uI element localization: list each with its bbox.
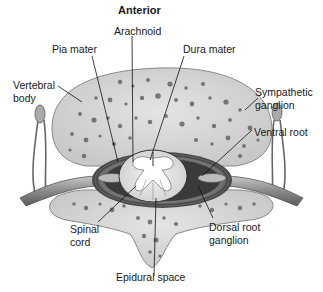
dorsal-root-ganglion-shape (198, 174, 226, 183)
label-spinal-cord-line1: Spinal (70, 223, 99, 235)
label-arachnoid: Arachnoid (114, 25, 161, 37)
label-sympathetic-ganglion-line2: ganglion (255, 99, 295, 111)
label-dura-mater: Dura mater (183, 43, 236, 55)
label-vertebral-body-line1: Vertebral (13, 79, 55, 91)
spinal-anatomy-diagram: Anterior Arachnoid Pia mater Dura mater … (0, 0, 323, 292)
label-epidural-space: Epidural space (116, 271, 185, 283)
label-ventral-root: Ventral root (254, 126, 308, 138)
label-vertebral-body-line2: body (13, 92, 36, 104)
label-dorsal-root-ganglion-line1: Dorsal root (209, 221, 260, 233)
label-pia-mater: Pia mater (52, 43, 97, 55)
label-spinal-cord-line2: cord (70, 236, 90, 248)
diagram-title: Anterior (118, 4, 161, 16)
sympathetic-chain-left (33, 120, 46, 196)
label-sympathetic-ganglion-line1: Sympathetic (255, 86, 313, 98)
spinal-cross-section-illustration (0, 0, 323, 292)
label-dorsal-root-ganglion-line2: ganglion (209, 234, 249, 246)
